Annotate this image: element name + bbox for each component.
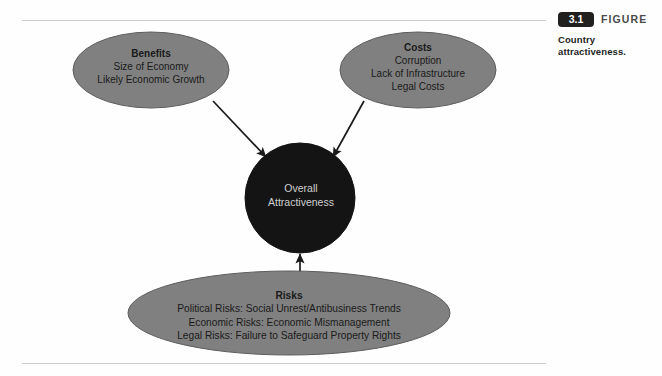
figure-caption-block: 3.1 FIGURE Country attractiveness. [558,10,658,58]
node-benefits[interactable] [73,32,229,108]
figure-label: FIGURE [601,13,647,25]
figure-number-badge: 3.1 [558,12,594,27]
node-overall-attractiveness[interactable] [245,143,355,253]
edge-benefits-to-overall [213,101,266,157]
edge-costs-to-overall [333,101,364,157]
figure-caption-text: Country attractiveness. [558,34,658,58]
figure-container: Benefits Size of Economy Likely Economic… [0,0,662,376]
country-attractiveness-diagram: Benefits Size of Economy Likely Economic… [0,0,558,376]
node-risks[interactable] [128,271,450,355]
node-costs[interactable] [340,32,496,108]
figure-caption-header: 3.1 FIGURE [558,10,658,28]
diagram-canvas [0,0,558,376]
